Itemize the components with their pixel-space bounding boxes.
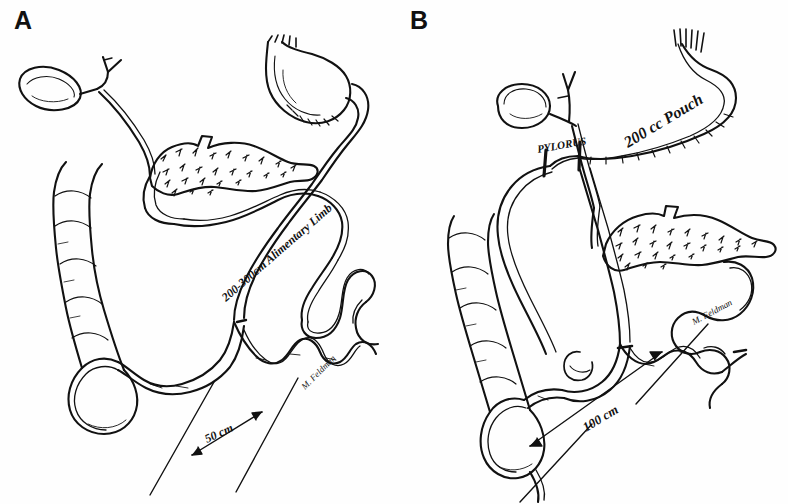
cecum	[69, 359, 138, 434]
sleeve-gastric-pouch	[578, 29, 736, 164]
biliopancreatic-limb	[498, 166, 556, 354]
artist-signature-a: M. Feldman	[299, 353, 338, 392]
pouch-volume-label: 200 cc Pouch	[620, 90, 706, 151]
ascending-colon	[53, 162, 124, 370]
jejunoileal-anastomosis	[237, 320, 246, 322]
small-bowel-loops	[302, 269, 378, 344]
ascending-colon	[448, 214, 530, 412]
gallbladder	[497, 84, 550, 128]
panel-b-illustration: PYLORUS 200 cc Pouch 100 cm M. Feldman	[394, 0, 788, 504]
pancreas	[150, 136, 318, 196]
esophagus-staple-line	[268, 35, 296, 47]
small-bowel-loops	[672, 262, 754, 408]
esophagus-staple-line	[674, 29, 704, 52]
panel-a-illustration: 200-300cm Alimentary Limb 50 cm M. Feldm…	[0, 0, 394, 504]
gastric-pouch	[266, 35, 350, 126]
common-channel-label-a: 50 cm	[202, 420, 235, 445]
figure-container: A	[0, 0, 788, 504]
alimentary-limb-label: 200-300cm Alimentary Limb	[218, 201, 335, 305]
panel-a: A	[0, 0, 394, 504]
appendix	[530, 470, 545, 502]
pancreas	[603, 206, 776, 271]
panel-b: B	[394, 0, 788, 504]
common-channel	[524, 344, 630, 408]
alimentary-limb	[580, 168, 632, 348]
gallbladder	[19, 67, 81, 110]
distal-ileum	[118, 322, 244, 394]
biliary-tree	[80, 57, 155, 176]
ileum	[234, 322, 376, 366]
ileoileal-anastomosis	[734, 350, 746, 352]
